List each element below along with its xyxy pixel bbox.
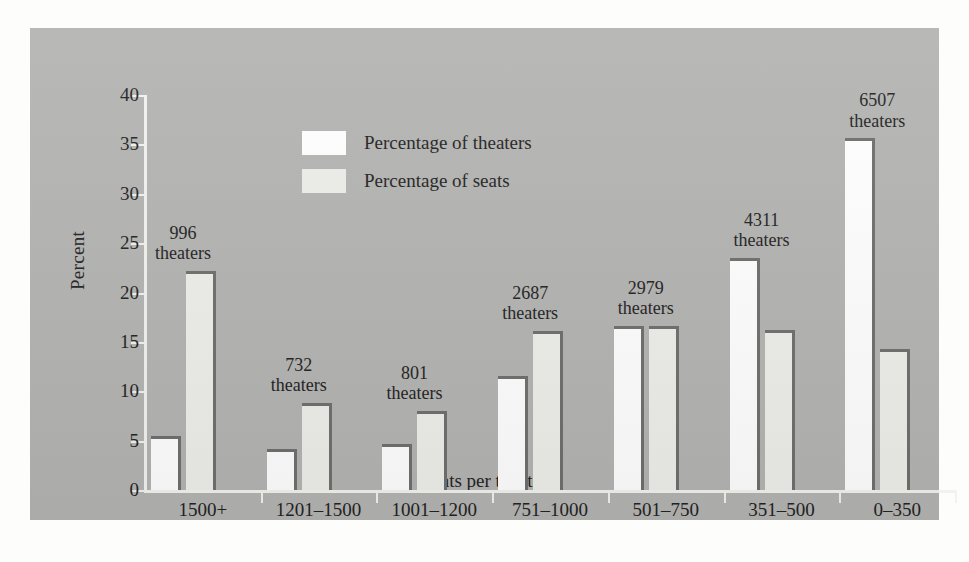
annotation-count: 2979: [581, 278, 711, 298]
legend-entry-seats: Percentage of seats: [302, 168, 532, 193]
bar-seats: [649, 326, 679, 490]
bar-theaters: [267, 449, 297, 490]
legend-entry-theaters: Percentage of theaters: [302, 130, 532, 155]
bar-annotation: 6507theaters: [812, 90, 942, 130]
annotation-unit: theaters: [465, 303, 595, 323]
bar-annotation: 801theaters: [349, 363, 479, 403]
bar-theaters: [845, 138, 875, 490]
bar-group: 6507theaters: [839, 95, 955, 490]
annotation-count: 4311: [697, 210, 827, 230]
annotation-count: 801: [349, 363, 479, 383]
y-tick-label: 40: [120, 84, 139, 106]
annotation-unit: theaters: [697, 230, 827, 250]
bar-annotation: 4311theaters: [697, 210, 827, 250]
annotation-count: 6507: [812, 90, 942, 110]
annotation-count: 996: [118, 223, 248, 243]
bar-theaters: [151, 436, 181, 490]
plot-panel: Percent Seats per theater 05101520253035…: [30, 28, 939, 520]
annotation-unit: theaters: [349, 383, 479, 403]
y-tick-label: 5: [130, 430, 140, 452]
legend: Percentage of theaters Percentage of sea…: [302, 130, 532, 206]
bar-theaters: [614, 326, 644, 490]
annotation-unit: theaters: [581, 298, 711, 318]
x-axis-line: [144, 490, 956, 493]
y-tick-label: 15: [120, 331, 139, 353]
bar-theaters: [382, 444, 412, 490]
annotation-unit: theaters: [234, 375, 364, 395]
bar-seats: [186, 271, 216, 490]
y-tick-label: 20: [120, 282, 139, 304]
annotation-unit: theaters: [812, 111, 942, 131]
bar-seats: [765, 330, 795, 490]
x-category-label: 0–350: [822, 499, 969, 521]
bar-theaters: [730, 258, 760, 490]
annotation-unit: theaters: [118, 243, 248, 263]
bar-group: 996theaters: [145, 95, 261, 490]
y-tick-label: 30: [120, 183, 139, 205]
legend-label-theaters: Percentage of theaters: [364, 132, 532, 154]
bar-seats: [417, 411, 447, 490]
annotation-count: 732: [234, 355, 364, 375]
y-axis-title: Percent: [67, 231, 89, 290]
bar-seats: [302, 403, 332, 490]
y-tick-label: 0: [130, 479, 140, 501]
bar-annotation: 2687theaters: [465, 283, 595, 323]
bar-seats: [880, 349, 910, 490]
bar-annotation: 2979theaters: [581, 278, 711, 318]
y-tick-label: 10: [120, 380, 139, 402]
bar-annotation: 996theaters: [118, 223, 248, 263]
bar-theaters: [498, 376, 528, 490]
legend-swatch-seats: [302, 169, 346, 193]
y-tick-label: 35: [120, 133, 139, 155]
legend-swatch-theaters: [302, 131, 346, 155]
chart-figure: Percent Seats per theater 05101520253035…: [0, 0, 969, 562]
bar-group: 4311theaters: [724, 95, 840, 490]
bar-annotation: 732theaters: [234, 355, 364, 395]
legend-label-seats: Percentage of seats: [364, 170, 510, 192]
annotation-count: 2687: [465, 283, 595, 303]
plot-area: 0510152025303540 996theaters732theaters8…: [145, 95, 955, 490]
bar-group: 2979theaters: [608, 95, 724, 490]
bar-seats: [533, 331, 563, 490]
